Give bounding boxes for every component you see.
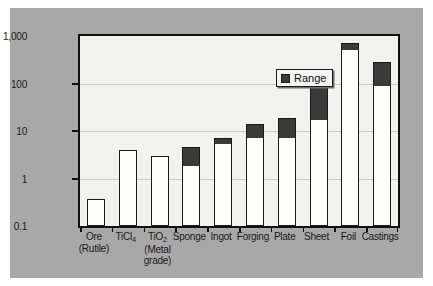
plot-area (80, 36, 398, 226)
y-tick-label: 0.1 (0, 221, 27, 232)
bar-tio2-metal-grade (151, 156, 169, 226)
x-label-castings: Castings (350, 231, 410, 243)
y-tick-label: 100 (0, 78, 27, 89)
bar-range-segment (183, 148, 199, 167)
bar-foil (341, 43, 359, 226)
bar-range-segment (215, 139, 231, 145)
bar-range-segment (247, 125, 263, 138)
y-tick-label: 10 (0, 126, 27, 137)
legend-label-range: Range (294, 72, 326, 84)
y-tick-label: 1 (0, 173, 27, 184)
bar-ore-rutile (87, 199, 105, 227)
bar-range-segment (374, 63, 390, 87)
y-tick-label: 1,000 (0, 31, 27, 42)
bar-ticl4 (119, 150, 137, 226)
bar-range-segment (342, 44, 358, 50)
bar-range-segment (311, 85, 327, 120)
bar-plate (278, 118, 296, 226)
bar-ingot (214, 138, 232, 226)
bar-sponge (182, 147, 200, 226)
bar-sheet (310, 84, 328, 227)
legend-swatch-range (281, 74, 290, 83)
legend: Range (276, 69, 333, 87)
bar-range-segment (279, 119, 295, 138)
plot-frame: Range (78, 34, 400, 228)
bar-forging (246, 124, 264, 226)
bar-castings (373, 62, 391, 227)
figure-panel: Log ($ per pound contained Ti) 1,0001001… (10, 8, 423, 278)
